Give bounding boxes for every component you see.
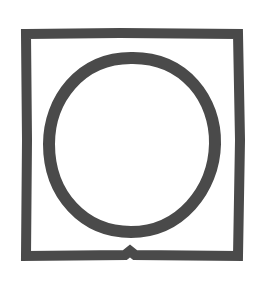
- square-with-circle-icon: [0, 0, 265, 286]
- tumble-dry-symbol: [0, 0, 265, 286]
- circle-outline: [49, 58, 215, 232]
- square-outline: [26, 33, 240, 256]
